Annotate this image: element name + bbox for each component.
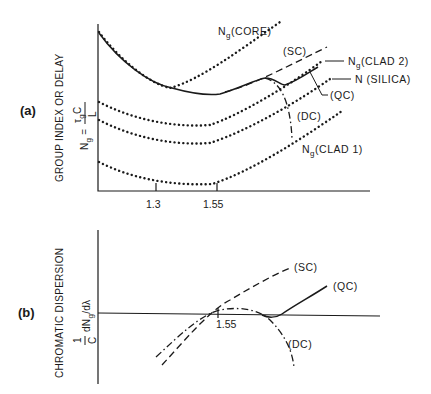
- label-ng-clad1: Ng(CLAD 1): [302, 143, 363, 158]
- curve-fiber-common: [99, 33, 265, 95]
- label-ng-clad2: Ng(CLAD 2): [348, 55, 409, 70]
- y-axis-title-b: CHROMATIC DISPERSION: [54, 248, 65, 378]
- label-qc: (QC): [330, 89, 355, 101]
- y-axis-title: GROUP INDEX OR DELAY: [54, 54, 65, 182]
- dispersion-diagram: (a) GROUP INDEX OR DELAY Ng= τgC L 1.3 1…: [0, 0, 431, 394]
- tick-label-1.55: 1.55: [203, 198, 224, 210]
- panel-b-zero-line: [98, 313, 380, 316]
- label-ng-core: Ng(CORE): [218, 25, 271, 40]
- panel-a-y-axis-label: GROUP INDEX OR DELAY: [54, 54, 65, 182]
- panel-a-axes: [98, 24, 370, 191]
- curve-sc: [225, 47, 327, 92]
- label-b-dc: (DC): [288, 338, 312, 350]
- panel-b-y-axis-label: CHROMATIC DISPERSION: [54, 248, 65, 378]
- panel-a-label: (a): [20, 103, 36, 118]
- curve-ng-clad2: [99, 61, 322, 126]
- label-dc: (DC): [297, 110, 321, 122]
- label-n-silica: N (SILICA): [355, 73, 411, 85]
- label-b-qc: (QC): [333, 280, 358, 292]
- svg-text:Ng=: Ng=: [79, 129, 93, 150]
- curve-b-qc: [262, 286, 327, 317]
- label-b-sc: (SC): [294, 261, 318, 273]
- curve-n-silica: [99, 79, 330, 144]
- svg-text:τgC: τgC: [72, 106, 86, 123]
- svg-text:L: L: [87, 111, 98, 117]
- svg-text:C: C: [87, 336, 98, 344]
- label-sc: (SC): [283, 45, 307, 57]
- svg-text:1: 1: [72, 337, 83, 343]
- curve-dc: [265, 78, 292, 138]
- svg-text:dNg/dλ: dNg/dλ: [81, 300, 95, 332]
- tick-label-1.3: 1.3: [146, 198, 161, 210]
- panel-b-label: (b): [18, 305, 35, 320]
- panel-a-y-formula: Ng= τgC L: [72, 102, 98, 150]
- panel-b-y-formula: 1 C dNg/dλ: [72, 300, 98, 345]
- tick-label-b-1.55: 1.55: [216, 318, 237, 330]
